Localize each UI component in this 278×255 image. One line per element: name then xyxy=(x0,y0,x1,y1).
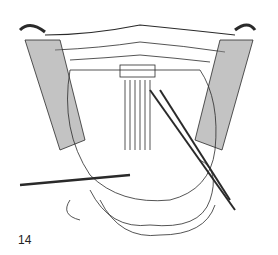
illustration-drawing xyxy=(0,0,278,255)
figure-number: 14 xyxy=(18,233,31,247)
surgical-illustration xyxy=(0,0,278,255)
